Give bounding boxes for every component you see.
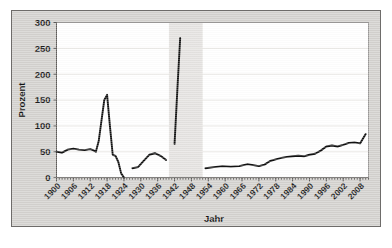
x-tick-label: 1912 bbox=[76, 181, 97, 202]
chart-frame: 050100150200250300 190019061912191819241… bbox=[11, 10, 381, 227]
x-tick-label: 1960 bbox=[211, 181, 232, 202]
y-axis-title: Prozent bbox=[16, 82, 27, 118]
x-tick-label: 1942 bbox=[160, 181, 181, 202]
line-chart: 050100150200250300 190019061912191819241… bbox=[12, 11, 382, 228]
x-tick-label: 1978 bbox=[261, 181, 282, 202]
x-tick-label: 1954 bbox=[194, 181, 215, 202]
x-tick-label: 1996 bbox=[312, 181, 333, 202]
y-tick-label: 200 bbox=[35, 69, 51, 80]
x-axis: 1900190619121918192419301936194219481954… bbox=[42, 178, 369, 202]
y-tick-label: 300 bbox=[35, 17, 51, 28]
x-tick-label: 1924 bbox=[109, 181, 130, 202]
y-tick-label: 100 bbox=[35, 120, 51, 131]
x-tick-label: 1948 bbox=[177, 181, 198, 202]
x-tick-label: 1900 bbox=[42, 181, 63, 202]
x-tick-label: 1930 bbox=[126, 181, 147, 202]
x-tick-label: 2008 bbox=[346, 181, 367, 202]
x-tick-label: 1966 bbox=[227, 181, 248, 202]
y-tick-label: 0 bbox=[45, 172, 50, 183]
x-tick-label: 1936 bbox=[143, 181, 164, 202]
x-tick-label: 1972 bbox=[244, 181, 265, 202]
x-tick-label: 2002 bbox=[329, 181, 350, 202]
x-axis-title: Jahr bbox=[204, 213, 224, 224]
x-tick-label: 1984 bbox=[278, 181, 299, 202]
x-tick-label: 1906 bbox=[59, 181, 80, 202]
y-tick-label: 250 bbox=[35, 43, 51, 54]
y-axis: 050100150200250300 bbox=[35, 17, 57, 183]
x-tick-label: 1990 bbox=[295, 181, 316, 202]
x-tick-label: 1918 bbox=[93, 181, 114, 202]
y-tick-label: 150 bbox=[35, 94, 51, 105]
y-tick-label: 50 bbox=[40, 146, 51, 157]
